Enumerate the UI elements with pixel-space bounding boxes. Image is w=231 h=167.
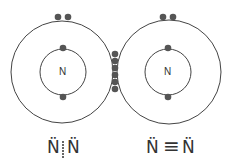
shared-electron xyxy=(112,58,119,65)
electron xyxy=(60,94,67,101)
electron xyxy=(65,14,72,21)
line-formula-right: N̈ xyxy=(182,137,195,157)
electron xyxy=(60,45,67,52)
shared-electron xyxy=(112,72,119,79)
right-nucleus-label: N xyxy=(164,66,171,77)
left-nucleus-label: N xyxy=(59,66,66,77)
n2-bohr-diagram xyxy=(0,0,231,167)
shared-electron xyxy=(112,65,119,72)
electron xyxy=(170,14,177,21)
electron xyxy=(160,14,167,21)
lewis-dot-bond xyxy=(62,141,64,158)
electron xyxy=(55,14,62,21)
dot-formula-right: N̈ xyxy=(67,137,80,157)
shared-electron xyxy=(112,51,119,58)
line-formula-left: N̈ xyxy=(146,137,159,157)
electron xyxy=(165,45,172,52)
triple-bond-symbol: ≡ xyxy=(163,134,180,158)
shared-electron xyxy=(112,86,119,93)
electron xyxy=(165,94,172,101)
shared-electron xyxy=(112,79,119,86)
dot-formula-left: N̈ xyxy=(47,137,60,157)
